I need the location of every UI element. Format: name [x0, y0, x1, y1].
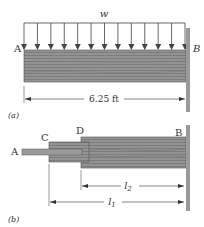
dimension-l1: l1 — [49, 164, 184, 209]
point-d-label: D — [76, 125, 84, 136]
point-a-label-b: A — [10, 146, 19, 157]
caption-b: (b) — [8, 215, 19, 224]
wall-support-b — [186, 125, 190, 211]
point-b-label-b: B — [175, 127, 182, 138]
load-label: w — [100, 8, 109, 19]
dimension-l2: l2 — [81, 170, 184, 193]
load-arrows — [24, 23, 185, 49]
distributed-load — [24, 23, 185, 49]
l1-label: l1 — [108, 196, 116, 209]
span-label: 6.25 ft — [89, 94, 119, 104]
point-a-label: A — [13, 43, 22, 54]
beam — [24, 50, 186, 82]
wall-support — [186, 28, 190, 112]
caption-a: (a) — [8, 111, 19, 120]
figure-a: w A B 6.25 ft (a) — [8, 8, 200, 120]
span-dimension: 6.25 ft — [24, 86, 185, 104]
point-c-label: C — [41, 132, 49, 143]
figure-b: A C D B l2 l1 (b) — [8, 125, 190, 224]
beam-diagram: w A B 6.25 ft (a) A C D B l2 — [0, 0, 204, 227]
l2-label: l2 — [124, 180, 132, 193]
segment-db — [81, 137, 186, 168]
point-b-label: B — [192, 43, 200, 54]
segment-ac — [22, 149, 82, 155]
